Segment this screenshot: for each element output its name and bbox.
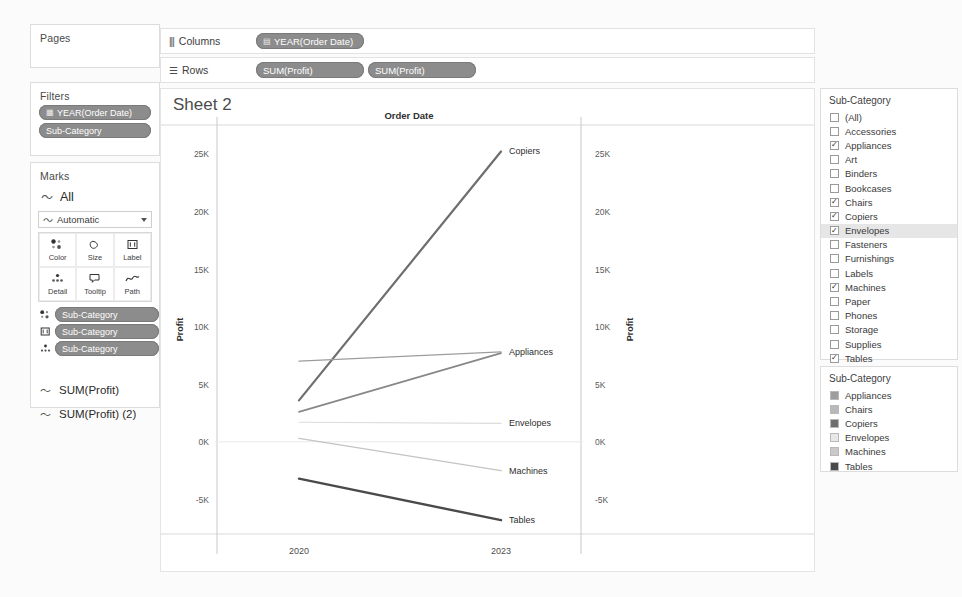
legend-color-swatch xyxy=(830,433,839,442)
filter-item-copiers[interactable]: ✓Copiers xyxy=(821,209,957,223)
line-chart[interactable]: Order Date25K25K20K20K15K15K10K10K5K5K0K… xyxy=(161,89,814,571)
measure-card-sum-profit-2[interactable]: 〜 SUM(Profit) (2) xyxy=(30,402,160,426)
filter-pill-year-order-date[interactable]: ▦ YEAR(Order Date) xyxy=(39,105,151,120)
legend-item-appliances[interactable]: Appliances xyxy=(821,388,957,402)
checkbox-icon[interactable] xyxy=(830,340,839,349)
checkbox-icon[interactable] xyxy=(830,311,839,320)
color-icon xyxy=(38,310,52,319)
legend-item-copiers[interactable]: Copiers xyxy=(821,416,957,430)
checkbox-icon[interactable]: ✓ xyxy=(830,283,839,292)
chart-mark-label-copiers: Copiers xyxy=(509,146,541,156)
size-button[interactable]: Size xyxy=(76,233,113,267)
filter-item-label: (All) xyxy=(845,112,862,123)
checkbox-icon[interactable]: ✓ xyxy=(830,198,839,207)
filter-item-chairs[interactable]: ✓Chairs xyxy=(821,195,957,209)
marks-all-label: All xyxy=(60,190,74,204)
pill-text: Sub-Category xyxy=(62,344,118,354)
filter-item-envelopes[interactable]: ✓Envelopes xyxy=(821,224,957,238)
shelf-pill-year-order-date[interactable]: ▤ YEAR(Order Date) xyxy=(256,33,364,49)
encoding-pill-detail[interactable]: Sub-Category xyxy=(31,341,159,356)
checkbox-icon[interactable]: ✓ xyxy=(830,212,839,221)
filter-item-appliances[interactable]: ✓Appliances xyxy=(821,138,957,152)
chart-line-machines[interactable] xyxy=(299,438,501,470)
chart-mark-label-envelopes: Envelopes xyxy=(509,418,552,428)
filter-item-tables[interactable]: ✓Tables xyxy=(821,351,957,365)
filter-item-furnishings[interactable]: Furnishings xyxy=(821,252,957,266)
legend-item-tables[interactable]: Tables xyxy=(821,459,957,473)
filter-item-accessories[interactable]: Accessories xyxy=(821,124,957,138)
filter-item-label: Furnishings xyxy=(845,253,894,264)
label-button-label: Label xyxy=(123,253,141,262)
checkbox-icon[interactable] xyxy=(830,169,839,178)
chart-line-tables[interactable] xyxy=(299,479,501,520)
encoding-pill-color[interactable]: Sub-Category xyxy=(31,307,159,322)
checkbox-icon[interactable]: ✓ xyxy=(830,226,839,235)
filter-item-binders[interactable]: Binders xyxy=(821,167,957,181)
legend-item-envelopes[interactable]: Envelopes xyxy=(821,431,957,445)
filter-item-paper[interactable]: Paper xyxy=(821,294,957,308)
color-button[interactable]: Color xyxy=(39,233,76,267)
checkbox-icon[interactable]: ✓ xyxy=(830,354,839,363)
filter-item-label: Fasteners xyxy=(845,239,887,250)
filter-item-label: Art xyxy=(845,154,857,165)
filter-item-fasteners[interactable]: Fasteners xyxy=(821,238,957,252)
detail-button[interactable]: Detail xyxy=(39,267,76,301)
filter-item-label: Envelopes xyxy=(845,225,889,236)
detail-button-label: Detail xyxy=(48,287,67,296)
shelf-pill-sum-profit-2[interactable]: SUM(Profit) xyxy=(368,62,476,78)
checkbox-icon[interactable]: ✓ xyxy=(830,141,839,150)
sub-category-filter-card[interactable]: Sub-Category (All)Accessories✓Appliances… xyxy=(820,88,958,360)
filter-item-art[interactable]: Art xyxy=(821,153,957,167)
checkbox-icon[interactable] xyxy=(830,127,839,136)
legend-item-chairs[interactable]: Chairs xyxy=(821,402,957,416)
columns-shelf-pills: ▤ YEAR(Order Date) xyxy=(256,33,364,49)
chart-line-copiers[interactable] xyxy=(299,151,501,400)
chart-line-appliances[interactable] xyxy=(299,352,501,361)
measure-card-label: SUM(Profit) (2) xyxy=(59,408,136,420)
filter-item-bookcases[interactable]: Bookcases xyxy=(821,181,957,195)
filter-item-storage[interactable]: Storage xyxy=(821,323,957,337)
label-button[interactable]: Label xyxy=(114,233,151,267)
x-axis-tick-label[interactable]: 2023 xyxy=(491,546,511,556)
filter-item-all[interactable]: (All) xyxy=(821,110,957,124)
measure-marks-card-list: 〜 SUM(Profit) 〜 SUM(Profit) (2) xyxy=(30,378,160,428)
x-axis-tick-label[interactable]: 2020 xyxy=(289,546,309,556)
filter-pill-sub-category[interactable]: Sub-Category xyxy=(39,123,151,138)
path-button[interactable]: Path xyxy=(114,267,151,301)
tooltip-button[interactable]: Tooltip xyxy=(76,267,113,301)
marks-card[interactable]: Marks 〜 All 〜 Automatic Color xyxy=(30,162,160,408)
filter-item-supplies[interactable]: Supplies xyxy=(821,337,957,351)
pages-card[interactable]: Pages xyxy=(30,24,160,68)
pill-text: YEAR(Order Date) xyxy=(274,36,353,47)
filter-item-label: Chairs xyxy=(845,197,872,208)
filter-item-labels[interactable]: Labels xyxy=(821,266,957,280)
chart-line-envelopes[interactable] xyxy=(299,422,501,423)
checkbox-icon[interactable] xyxy=(830,155,839,164)
filter-item-machines[interactable]: ✓Machines xyxy=(821,280,957,294)
marks-encoding-buttons: Color Size Label xyxy=(38,232,152,302)
measure-card-sum-profit[interactable]: 〜 SUM(Profit) xyxy=(30,378,160,402)
mark-type-dropdown[interactable]: 〜 Automatic xyxy=(38,211,152,228)
checkbox-icon[interactable] xyxy=(830,325,839,334)
checkbox-icon[interactable] xyxy=(830,269,839,278)
encoding-pill-label-color[interactable]: Sub-Category xyxy=(55,307,159,322)
encoding-pill-label[interactable]: Sub-Category xyxy=(31,324,159,339)
columns-shelf[interactable]: ||| Columns ▤ YEAR(Order Date) xyxy=(160,28,815,54)
checkbox-icon[interactable] xyxy=(830,113,839,122)
marks-all-row[interactable]: 〜 All xyxy=(31,182,159,207)
checkbox-icon[interactable] xyxy=(830,240,839,249)
checkbox-icon[interactable] xyxy=(830,184,839,193)
sub-category-color-legend[interactable]: Sub-Category AppliancesChairsCopiersEnve… xyxy=(820,366,958,472)
checkbox-icon[interactable] xyxy=(830,254,839,263)
filters-card[interactable]: Filters ▦ YEAR(Order Date) Sub-Category xyxy=(30,82,160,156)
filter-item-phones[interactable]: Phones xyxy=(821,309,957,323)
encoding-pill-label-detail[interactable]: Sub-Category xyxy=(55,341,159,356)
path-icon xyxy=(125,272,140,285)
visualization-pane[interactable]: Sheet 2 Order Date25K25K20K20K15K15K10K1… xyxy=(160,88,815,572)
checkbox-icon[interactable] xyxy=(830,297,839,306)
marks-title: Marks xyxy=(31,163,159,182)
encoding-pill-label-label[interactable]: Sub-Category xyxy=(55,324,159,339)
shelf-pill-sum-profit-1[interactable]: SUM(Profit) xyxy=(256,62,364,78)
rows-shelf[interactable]: ☰ Rows SUM(Profit) SUM(Profit) xyxy=(160,57,815,83)
legend-item-machines[interactable]: Machines xyxy=(821,445,957,459)
